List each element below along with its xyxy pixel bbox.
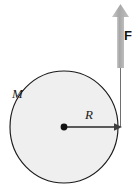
- center-dot-icon: [61, 124, 68, 131]
- force-label: F: [124, 29, 132, 42]
- radius-label: R: [85, 108, 93, 121]
- force-arrow-shaft: [117, 14, 124, 68]
- physics-figure: M R F: [0, 0, 135, 191]
- mass-label: M: [12, 87, 23, 100]
- force-arrow-head: [112, 4, 129, 17]
